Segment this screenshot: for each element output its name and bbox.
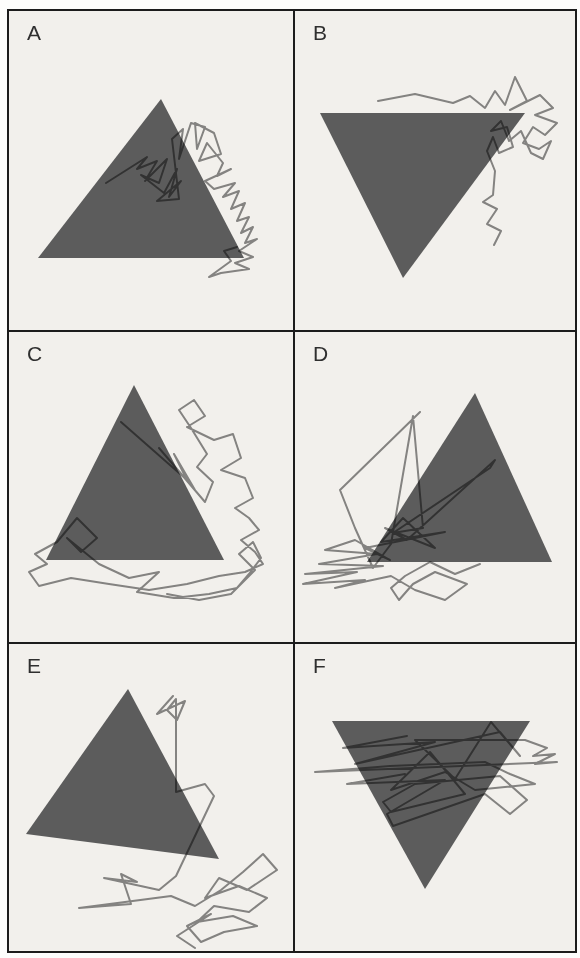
panel-label-c: C: [27, 342, 43, 366]
panel-c: C: [9, 332, 295, 644]
panel-f-drawing: [295, 644, 575, 951]
panel-a-drawing: [9, 11, 293, 330]
panel-e: E: [9, 644, 295, 951]
figure-frame: A B C D E F: [7, 9, 577, 953]
panel-label-e: E: [27, 654, 42, 678]
panel-e-drawing: [9, 644, 293, 951]
figure-page: A B C D E F: [0, 0, 580, 958]
panel-a: A: [9, 11, 295, 332]
panel-label-f: F: [313, 654, 326, 678]
panel-f: F: [295, 644, 575, 951]
panel-c-drawing: [9, 332, 293, 642]
panel-d-drawing: [295, 332, 575, 642]
panel-b: B: [295, 11, 575, 332]
panel-label-d: D: [313, 342, 329, 366]
panel-label-b: B: [313, 21, 328, 45]
panel-label-a: A: [27, 21, 42, 45]
triangle-shape: [46, 385, 224, 560]
panel-d: D: [295, 332, 575, 644]
panel-b-drawing: [295, 11, 575, 330]
triangle-shape: [38, 99, 244, 258]
triangle-shape: [26, 689, 219, 859]
triangle-shape: [367, 393, 552, 562]
